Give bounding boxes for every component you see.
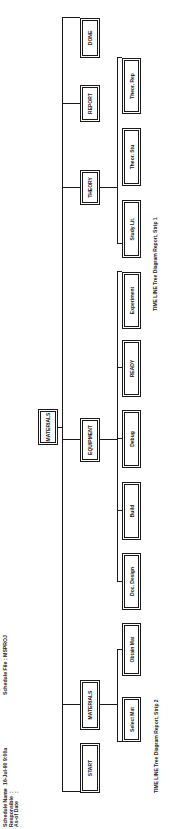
level2-bus-equipment (117, 271, 118, 582)
header-value: 16-Jul-90 9:00a (3, 748, 9, 785)
tree-node-theory[interactable]: THEORY (80, 170, 100, 205)
header-label: As-of Date (14, 793, 20, 827)
header-separator: : (14, 785, 20, 793)
tree-node-start[interactable]: START (80, 743, 100, 793)
connector-line (100, 439, 117, 440)
tree-node-ready[interactable]: READY (122, 340, 141, 397)
connector-line (62, 791, 80, 792)
tree-node-done[interactable]: DONE (80, 18, 100, 58)
tree-node-select-mat[interactable]: Select Mat (122, 697, 141, 742)
tree-node-report[interactable]: REPORT (80, 85, 100, 122)
tree-node-materials[interactable]: MATERIALS (80, 680, 100, 730)
tree-node-root-materials[interactable]: MATERIALS (38, 409, 58, 445)
node-label: MATERIALS (82, 682, 98, 728)
level2-bus-materials (117, 649, 118, 742)
node-label: THEORY (82, 172, 98, 203)
tree-diagram-page: Schedule Name : 16-Jul-90 9:00a Responsi… (0, 0, 175, 829)
tree-node-theor-rep[interactable]: Theor. Rep (122, 58, 141, 114)
tree-node-obtain-mat[interactable]: Obtain Mat (122, 623, 141, 676)
node-label: REPORT (82, 87, 98, 120)
node-label: Doc. Design (124, 555, 139, 608)
tree-node-debug[interactable]: Debug (122, 410, 141, 468)
node-label: DONE (82, 20, 98, 56)
connector-line (62, 17, 80, 18)
connector-line (100, 187, 117, 188)
schedule-file: Schedule File : MSPROJ (3, 635, 9, 695)
node-label: Theor. Stu (124, 130, 139, 184)
node-label: READY (124, 342, 139, 395)
connector-line (62, 439, 80, 440)
node-label: Theor. Rep (124, 60, 139, 112)
header-row-as-of-date: As-of Date : (14, 748, 20, 827)
schedule-file-value: MSPROJ (2, 635, 8, 657)
tree-node-study-lit[interactable]: Study Lit. (122, 200, 141, 258)
tree-node-doc-design[interactable]: Doc. Design (122, 553, 141, 610)
tree-node-build[interactable]: Build (122, 482, 141, 540)
caption-strip-1: TIME LINE Tree Diagram Report, Strip 1 (152, 217, 158, 311)
node-label: Obtain Mat (124, 625, 139, 674)
level1-bus-line (62, 17, 63, 792)
node-label: Select Mat (124, 699, 139, 740)
level2-bus-theory (117, 57, 118, 244)
connector-line (62, 103, 80, 104)
node-label: Build (124, 484, 139, 538)
node-label: MATERIALS (40, 411, 56, 443)
tree-node-experiment[interactable]: Experiment (122, 272, 141, 329)
node-label: Debug (124, 412, 139, 466)
schedule-header: Schedule Name : 16-Jul-90 9:00a Responsi… (3, 748, 20, 827)
connector-line (100, 704, 117, 705)
connector-line (62, 187, 80, 188)
node-label: EQUIPMENT (82, 420, 98, 460)
connector-line (62, 704, 80, 705)
caption-strip-2: TIME LINE Tree Diagram Report, Strip 2 (153, 699, 159, 793)
node-label: START (82, 745, 98, 791)
node-label: Study Lit. (124, 202, 139, 256)
tree-node-theor-stu[interactable]: Theor. Stu (122, 128, 141, 186)
node-label: Experiment (124, 274, 139, 327)
schedule-file-label: Schedule File : (2, 658, 8, 695)
tree-node-equipment[interactable]: EQUIPMENT (80, 418, 100, 462)
